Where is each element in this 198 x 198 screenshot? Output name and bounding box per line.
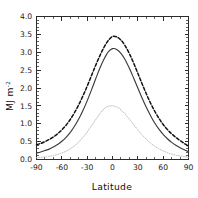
x-axis-title: Latitude <box>92 181 133 192</box>
x-tick-label: -90 <box>30 163 43 172</box>
dashed-curve <box>37 36 189 146</box>
y-tick-label: 2.5 <box>20 66 32 75</box>
data-curves <box>37 36 189 157</box>
y-axis-title-text: MJ m <box>4 87 15 111</box>
y-tick-label: 0.5 <box>20 137 32 146</box>
x-tick-label: 60 <box>158 163 168 172</box>
y-tick-label: 1.5 <box>20 102 32 111</box>
y-axis-tick-labels: 0.00.51.01.52.02.53.03.54.0 <box>20 12 32 164</box>
x-tick-label: -30 <box>81 163 94 172</box>
chart-plot-area: 0.00.51.01.52.02.53.03.54.0 -90-60-30030… <box>0 0 198 198</box>
chart-figure: 0.00.51.01.52.02.53.03.54.0 -90-60-30030… <box>0 0 198 198</box>
svg-text:MJ m-2: MJ m-2 <box>4 81 15 111</box>
x-axis-tick-labels: -90-60-300306090 <box>30 163 193 172</box>
y-axis-title-exponent: -2 <box>5 81 11 87</box>
x-tick-label: 90 <box>184 163 194 172</box>
y-tick-label: 1.0 <box>20 119 32 128</box>
x-tick-label: 30 <box>133 163 143 172</box>
x-tick-label: -60 <box>56 163 69 172</box>
y-tick-label: 3.5 <box>20 30 32 39</box>
y-tick-label: 4.0 <box>20 12 32 21</box>
y-tick-label: 2.0 <box>20 84 32 93</box>
y-axis-title: MJ m-2 <box>4 81 15 111</box>
x-tick-label: 0 <box>110 163 115 172</box>
y-tick-label: 3.0 <box>20 48 32 57</box>
solid-curve <box>37 48 189 153</box>
plot-frame <box>37 17 189 160</box>
axis-tick-marks <box>37 17 189 160</box>
